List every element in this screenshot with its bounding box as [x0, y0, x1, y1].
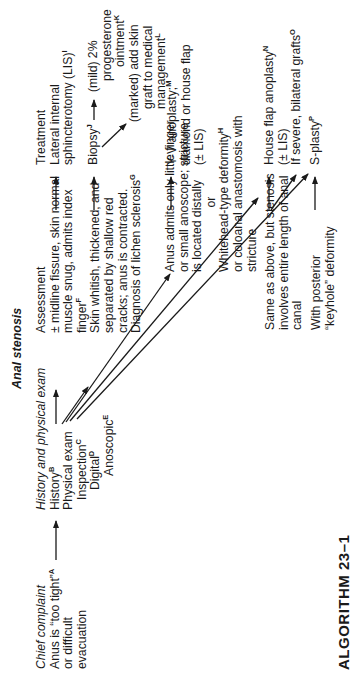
assessment-item-entire-canal: Same as above, but stenosis involves ent…	[264, 174, 305, 331]
assessment-header: Assessment	[35, 174, 49, 333]
chief-complaint-line: Anus is “too tight”A	[49, 569, 63, 669]
chief-complaint-line: or difficult	[62, 569, 76, 669]
treatment-splasty: S-plastyP	[309, 116, 323, 165]
history-exam-block: History and physical exam HistoryB Physi…	[35, 368, 117, 510]
diagram-title: Anal stenosis	[11, 308, 25, 389]
chief-complaint-block: Chief complaint Anus is “too tight”A or …	[35, 569, 89, 669]
treatment-mild: (mild) 2% progesterone ointmentK	[87, 9, 128, 92]
history-exam-header: History and physical exam	[35, 368, 49, 510]
treatment-house-flap: House flap anoplastyN (± LIS) If severe,…	[263, 29, 304, 165]
treatment-block: Treatment Lateral internal sphincterotom…	[35, 50, 76, 165]
history-item: HistoryB	[49, 368, 63, 510]
arrow-biopsy-to-marked	[102, 124, 126, 147]
treatment-marked: (marked) add skin graft to medical manag…	[128, 24, 169, 122]
assessment-block: Assessment ± midline fissure, skin norma…	[35, 174, 144, 333]
treatment-yv-anoplasty: Y-V anoplasty;M diamond or house flap (±…	[166, 44, 207, 165]
treatment-header: Treatment	[35, 50, 49, 165]
algorithm-label: ALGORITHM 23–1	[337, 535, 351, 670]
digital-item: DigitalD	[89, 368, 103, 510]
algorithm-diagram: Anal stenosis Chief complaint Anus is “t…	[0, 0, 360, 687]
assessment-item-fissure: ± midline fissure, skin normal muscle sn…	[49, 174, 90, 333]
anoscopic-item: AnoscopicE	[103, 368, 117, 510]
chief-complaint-line: evacuation	[76, 569, 90, 669]
treatment-lis: Lateral internal sphincterotomy (LIS)I	[49, 50, 76, 165]
chief-complaint-header: Chief complaint	[35, 569, 49, 669]
assessment-item-keyhole: With posterior “keyhole” deformity	[310, 226, 337, 330]
assessment-item-lichen: Skin whitish, thickened, and separated b…	[89, 174, 143, 333]
treatment-biopsy: BiopsyJ	[87, 124, 101, 165]
